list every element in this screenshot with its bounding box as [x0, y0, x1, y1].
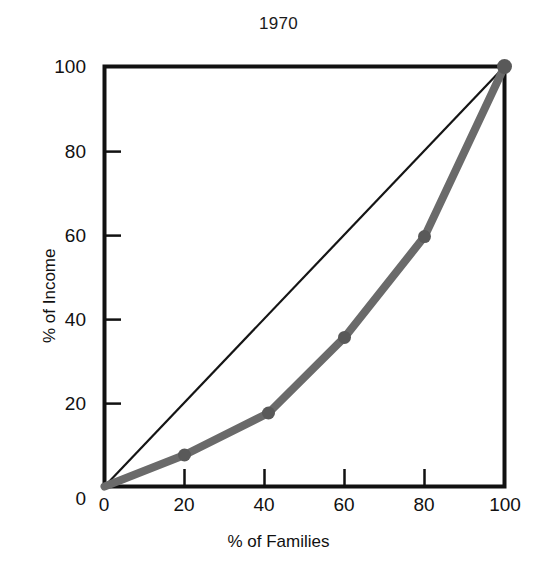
y-tick-label-60: 60	[28, 225, 86, 247]
x-tick-label-80: 80	[404, 494, 444, 516]
y-tick-label-80: 80	[28, 141, 86, 163]
x-axis-label: % of Families	[0, 532, 557, 552]
x-tick-label-0: 0	[84, 494, 124, 516]
y-tick-label-20: 20	[28, 393, 86, 415]
y-tick-label-0: 0	[28, 488, 86, 510]
data-point	[497, 59, 512, 74]
x-tick-label-100: 100	[482, 494, 528, 516]
y-axis-label: % of Income	[40, 249, 60, 344]
x-tick-label-20: 20	[164, 494, 204, 516]
data-point	[262, 407, 275, 420]
y-tick-label-100: 100	[28, 56, 86, 78]
x-tick-label-60: 60	[324, 494, 364, 516]
x-tick-label-40: 40	[244, 494, 284, 516]
data-point	[178, 449, 191, 462]
data-point	[418, 230, 431, 243]
data-point	[338, 331, 351, 344]
chart-figure: 1970 100 80 60 40 20 0 0 20 40 60	[0, 0, 557, 575]
